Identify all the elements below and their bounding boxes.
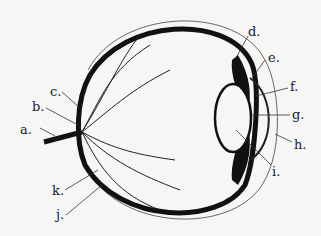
label-a: a.	[20, 123, 32, 136]
eye-diagram: a. b. c. d. e. f. g. h. i. k. j.	[0, 0, 321, 236]
label-k: k.	[52, 184, 64, 197]
label-f: f.	[290, 80, 298, 93]
label-d: d.	[248, 25, 260, 38]
label-g: g.	[292, 108, 304, 121]
label-b: b.	[32, 100, 44, 113]
eye-drawing	[0, 0, 321, 236]
label-c: c.	[50, 85, 61, 98]
label-j: j.	[56, 208, 64, 221]
lens	[215, 84, 251, 152]
label-e: e.	[268, 51, 280, 64]
label-h: h.	[294, 138, 307, 151]
label-i: i.	[272, 165, 280, 178]
